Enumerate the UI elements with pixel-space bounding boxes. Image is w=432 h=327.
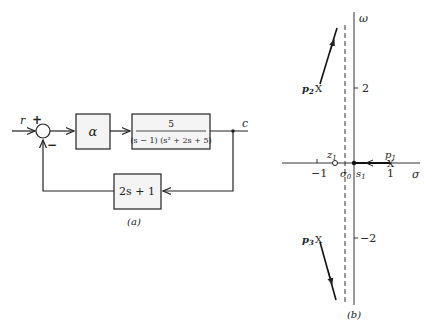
plant-denominator: (s − 1) (s² + 2s + 5) [130,136,211,145]
branch-upper [320,28,337,84]
input-label: r [20,114,26,127]
summing-junction [36,124,50,138]
feedback-label: 2s + 1 [119,185,155,198]
figure-canvas: r + − α 5 (s − 1) (s² + 2s + 5) c 2s + 1… [0,0,432,327]
pole2-marker: X [315,83,323,94]
plant-numerator: 5 [168,119,174,129]
minus-sign: − [47,138,57,152]
block-diagram: r + − α 5 (s − 1) (s² + 2s + 5) c 2s + 1… [12,113,248,227]
pole3-label: p3 [302,234,314,247]
s1-label: s1 [356,168,366,181]
output-label: c [242,117,248,130]
tick-neg1: −1 [311,167,327,180]
zero-label: z1 [326,149,337,162]
omega-label: ω [359,12,368,25]
pole3-marker: X [315,234,323,245]
gain-label: α [89,124,98,139]
root-locus-plot: ω σ 2 −2 −1 1 z1 σ0 s1 X p1 X p2 X p3 (b [282,12,420,320]
caption-b: (b) [347,309,361,320]
breakaway-point [352,161,356,165]
tick-neg2: −2 [360,232,376,245]
caption-a: (a) [127,216,141,227]
tick-pos2: 2 [362,82,369,95]
pole2-label: p2 [302,83,314,96]
sigma0-label: σ0 [340,168,352,181]
sigma-label: σ [412,168,420,181]
